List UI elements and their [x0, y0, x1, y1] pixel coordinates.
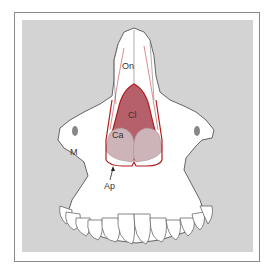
label-ca: Ca: [112, 130, 124, 140]
label-m: M: [70, 147, 78, 157]
label-on: On: [122, 61, 134, 71]
foramen-right: [194, 126, 200, 136]
foramen-left: [72, 126, 78, 136]
label-cl: Cl: [128, 110, 137, 120]
label-ap: Ap: [104, 181, 115, 191]
maxilla-diagram: On Cl Ca M Ap: [0, 0, 273, 273]
